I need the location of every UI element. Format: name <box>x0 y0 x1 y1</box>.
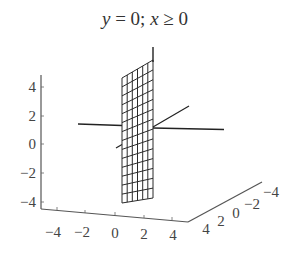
plot-figure: y = 0; x ≥ 0 <box>0 0 290 255</box>
depth-line-back <box>153 106 189 127</box>
d-tick-label: 2 <box>217 213 225 229</box>
ticks <box>41 87 172 220</box>
plot-canvas: 4 2 0 −2 −4 −4 −2 0 2 4 4 2 0 −2 −4 <box>0 0 290 255</box>
vertical-tick-labels: 4 2 0 −2 −4 <box>20 79 36 210</box>
mesh-surface <box>122 60 153 203</box>
x-axis-line-back <box>78 124 122 126</box>
depth-line-front <box>116 145 122 148</box>
d-tick-label: 0 <box>232 205 240 221</box>
d-tick-label: −4 <box>263 184 279 200</box>
v-tick-label: 4 <box>29 79 37 95</box>
f-tick-label: 2 <box>140 226 148 242</box>
f-tick-label: 0 <box>111 225 119 241</box>
v-tick-label: 0 <box>29 136 37 152</box>
v-tick-label: −2 <box>20 165 36 181</box>
f-tick-label: −2 <box>74 224 90 240</box>
front-tick-labels: −4 −2 0 2 4 <box>45 224 177 243</box>
v-tick-label: −4 <box>20 194 36 210</box>
v-tick-label: 2 <box>29 108 37 124</box>
f-tick-label: 4 <box>169 227 177 243</box>
d-tick-label: 4 <box>202 221 210 237</box>
depth-tick-labels: 4 2 0 −2 −4 <box>202 184 279 237</box>
f-tick-label: −4 <box>45 224 61 240</box>
front-axis-line <box>41 209 188 222</box>
x-axis-line-front <box>153 128 224 130</box>
frame-axes <box>41 75 262 222</box>
d-tick-label: −2 <box>244 196 260 212</box>
